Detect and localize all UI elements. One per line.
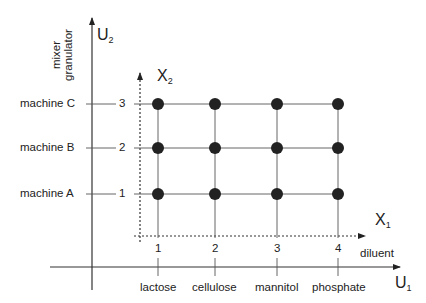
col-label-cellulose: cellulose xyxy=(192,282,237,294)
col-label-mannitol: mannitol xyxy=(255,282,298,294)
row-label-machine-c: machine C xyxy=(20,98,75,110)
x2-axis-label: X2 xyxy=(157,68,173,86)
row-level-1: 1 xyxy=(119,188,125,200)
col-level-4: 4 xyxy=(335,243,341,255)
u2-axis-label: U2 xyxy=(97,27,114,45)
col-label-lactose: lactose xyxy=(140,282,176,294)
row-level-3: 3 xyxy=(119,98,125,110)
u2-title: mixer granulator xyxy=(50,15,74,95)
row-level-2: 2 xyxy=(119,142,125,154)
col-level-3: 3 xyxy=(274,243,280,255)
x1-title: diluent xyxy=(360,248,394,260)
col-label-phosphate: phosphate xyxy=(312,282,366,294)
u1-axis-label: U1 xyxy=(395,275,412,293)
design-points xyxy=(152,98,344,200)
col-level-1: 1 xyxy=(155,243,161,255)
row-label-machine-a: machine A xyxy=(20,188,74,200)
x1-axis-label: X1 xyxy=(375,212,391,230)
col-level-2: 2 xyxy=(212,243,218,255)
row-label-machine-b: machine B xyxy=(20,142,74,154)
